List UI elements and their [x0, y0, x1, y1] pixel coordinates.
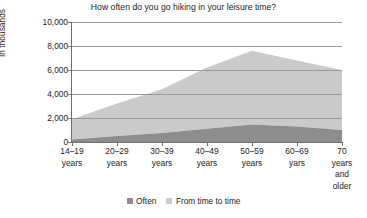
stacked-area-series — [72, 22, 342, 142]
x-axis-label-line: and — [312, 169, 367, 181]
gridline — [72, 70, 342, 71]
y-axis-line — [71, 22, 72, 143]
y-axis-tick-label: 10,000 — [20, 17, 68, 27]
legend-item[interactable]: From time to time — [166, 196, 240, 206]
chart-title: How often do you go hiking in your leisu… — [0, 2, 367, 12]
y-axis-tick — [68, 118, 72, 119]
chart-legend: OftenFrom time to time — [0, 196, 367, 206]
y-axis-tick — [68, 46, 72, 47]
area-chart-svg — [72, 22, 342, 142]
legend-swatch-icon — [166, 198, 172, 204]
legend-item[interactable]: Often — [127, 196, 157, 206]
y-axis-tick — [68, 94, 72, 95]
x-axis-label-line: years — [312, 158, 367, 170]
area-series-from-time-to-time — [72, 51, 342, 140]
gridline — [72, 118, 342, 119]
legend-label: Often — [136, 196, 156, 206]
chart-figure: How often do you go hiking in your leisu… — [0, 0, 367, 218]
gridline — [72, 22, 342, 23]
legend-label: From time to time — [176, 196, 241, 206]
y-axis-tick — [68, 22, 72, 23]
gridline — [72, 46, 342, 47]
y-axis-tick-label: 4,000 — [20, 89, 68, 99]
plot-area — [72, 22, 342, 142]
y-axis-tick-label: 8,000 — [20, 41, 68, 51]
y-axis-tick — [68, 70, 72, 71]
gridline — [72, 94, 342, 95]
x-axis-label-line: older — [312, 181, 367, 193]
y-axis-tick-label: 2,000 — [20, 113, 68, 123]
legend-swatch-icon — [127, 198, 133, 204]
y-axis-tick-label: 6,000 — [20, 65, 68, 75]
x-axis-label-line: 70 — [312, 146, 367, 158]
x-axis-tick-label: 70yearsandolder — [312, 146, 367, 192]
